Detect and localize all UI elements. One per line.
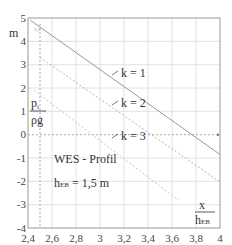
svg-text:hEB: hEB: [195, 213, 210, 227]
svg-text:3: 3: [21, 58, 27, 70]
svg-text:3,4: 3,4: [141, 232, 155, 244]
svg-text:4: 4: [217, 232, 223, 244]
svg-text:1: 1: [21, 105, 27, 117]
svg-text:2,6: 2,6: [45, 232, 59, 244]
svg-text:3,8: 3,8: [189, 232, 203, 244]
svg-text:3,6: 3,6: [165, 232, 179, 244]
k1-pointer: [112, 71, 118, 75]
k2-pointer: [112, 101, 118, 105]
svg-text:-1: -1: [17, 152, 26, 164]
svg-text:-3: -3: [17, 198, 27, 210]
svg-text:4: 4: [21, 35, 27, 47]
svg-text:-2: -2: [17, 175, 26, 187]
x-axis-ticks: 2,4 2,6 2,8 3 3,2 3,4 3,6 3,8 4: [21, 232, 223, 244]
k3-label: k = 3: [121, 129, 146, 143]
svg-text:ρg: ρg: [31, 113, 43, 127]
svg-text:2,4: 2,4: [21, 232, 35, 244]
svg-text:0: 0: [21, 128, 27, 140]
zero-line-end-marker: [217, 134, 219, 136]
heb-annotation: hEB = 1,5 m: [54, 176, 110, 190]
svg-text:pi: pi: [31, 96, 39, 111]
y-axis-unit: m: [9, 26, 19, 40]
x-axis-label: x hEB: [195, 198, 215, 227]
profile-annotation: WES - Profil: [54, 152, 117, 166]
y-axis-ticks: 5 4 3 2 1 0 -1 -2 -3 -4: [17, 12, 27, 234]
svg-text:2: 2: [21, 82, 27, 94]
svg-text:3,2: 3,2: [117, 232, 131, 244]
k1-label: k = 1: [121, 66, 146, 80]
svg-text:5: 5: [21, 12, 27, 24]
k2-label: k = 2: [121, 96, 146, 110]
chart: 2,5 k = 1 k = 2 k = 3 WES - Profil hEB =…: [0, 0, 232, 245]
svg-text:3: 3: [97, 232, 103, 244]
grid: [28, 18, 220, 228]
svg-text:x: x: [199, 198, 205, 212]
svg-text:2,8: 2,8: [69, 232, 83, 244]
